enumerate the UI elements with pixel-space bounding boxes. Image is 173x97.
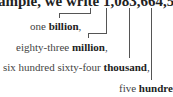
connector-million-v1 xyxy=(106,8,107,33)
label-hundred: five hundred xyxy=(119,82,173,94)
label-million: eighty-three million, xyxy=(16,41,108,53)
connector-million-v2 xyxy=(88,33,89,38)
connector-billion-v2 xyxy=(90,8,91,14)
connector-billion-h xyxy=(59,13,90,14)
label-billion: one billion, xyxy=(30,20,81,32)
connector-million-h xyxy=(88,33,107,34)
connector-thousand xyxy=(129,8,130,58)
connector-billion-v1 xyxy=(59,13,60,18)
label-thousand: six hundred sixty-four thousand, xyxy=(3,61,150,73)
number-sentence: ample, we write 1,083,664,500 an xyxy=(0,0,173,10)
connector-hundred xyxy=(151,8,152,80)
